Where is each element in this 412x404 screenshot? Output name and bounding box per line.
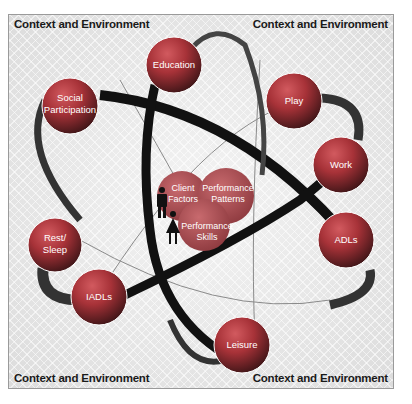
play-label: Play (285, 95, 304, 106)
svg-text:Performance: Performance (181, 221, 233, 231)
sphere-adls[interactable]: ADLs (318, 212, 374, 268)
occupation-diagram: Client Factors Performance Patterns Perf… (0, 0, 412, 404)
social-participation-label-2: Participation (44, 104, 96, 115)
performance-skills-line1: Performance (181, 221, 233, 231)
sphere-leisure[interactable]: Leisure (214, 317, 270, 373)
social-participation-label-1: Social (57, 92, 83, 103)
sphere-work[interactable]: Work (313, 137, 369, 193)
sphere-rest-sleep[interactable]: Rest/ Sleep (28, 218, 82, 272)
sphere-iadls[interactable]: IADLs (71, 269, 127, 325)
iadls-label: IADLs (86, 291, 112, 302)
svg-text:Skills: Skills (196, 232, 218, 242)
client-factors-line1: Client (171, 183, 195, 193)
education-label: Education (153, 59, 195, 70)
sphere-education[interactable]: Education (146, 37, 202, 93)
svg-text:Client: Client (171, 183, 195, 193)
work-label: Work (330, 159, 352, 170)
rest-sleep-label-2: Sleep (43, 244, 67, 255)
sphere-social-participation[interactable]: Social Participation (42, 78, 98, 134)
client-factors-line2: Factors (168, 194, 199, 204)
performance-patterns-line2: Patterns (211, 194, 245, 204)
leisure-label: Leisure (226, 339, 257, 350)
svg-text:Factors: Factors (168, 194, 199, 204)
performance-skills-line2: Skills (196, 232, 218, 242)
svg-text:Patterns: Patterns (211, 194, 245, 204)
rest-sleep-label-1: Rest/ (44, 232, 67, 243)
svg-text:Performance: Performance (202, 183, 254, 193)
adls-label: ADLs (334, 234, 357, 245)
sphere-play[interactable]: Play (266, 73, 322, 129)
performance-patterns-line1: Performance (202, 183, 254, 193)
